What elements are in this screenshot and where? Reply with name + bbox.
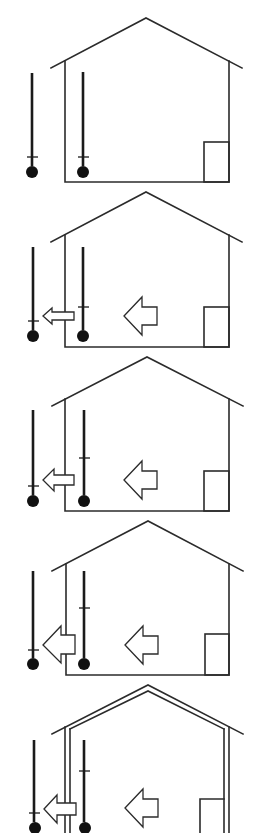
door [204,471,229,511]
heat-flow-arrow-wall [43,626,75,663]
outdoor-thermometer [27,410,39,507]
door [205,634,229,675]
indoor-thermometer [78,571,90,670]
heat-flow-arrow-inside [124,461,157,499]
panel-3 [27,357,243,511]
indoor-thermometer [79,740,91,833]
indoor-thermometer [77,72,89,178]
heat-flow-arrow-inside [124,297,157,335]
door [204,142,229,182]
heat-loss-diagram [0,0,253,833]
outdoor-thermometer [27,247,39,342]
inner-roof [70,691,224,729]
outdoor-thermometer [26,73,38,178]
heat-flow-arrow-wall [43,308,74,324]
panel-4 [27,521,243,675]
door [204,307,229,347]
outer-roof [52,685,243,734]
indoor-thermometer [78,410,90,507]
panel-2 [27,192,242,347]
heat-flow-arrow-inside [125,789,158,827]
indoor-thermometer [77,247,89,342]
panel-1 [26,18,242,182]
heat-flow-arrow-wall [43,469,74,491]
heat-flow-arrow-wall [44,795,76,823]
door [200,799,224,833]
panel-5 [29,685,243,833]
outdoor-thermometer [27,571,39,670]
heat-flow-arrow-inside [125,626,158,664]
outdoor-thermometer [29,740,41,833]
